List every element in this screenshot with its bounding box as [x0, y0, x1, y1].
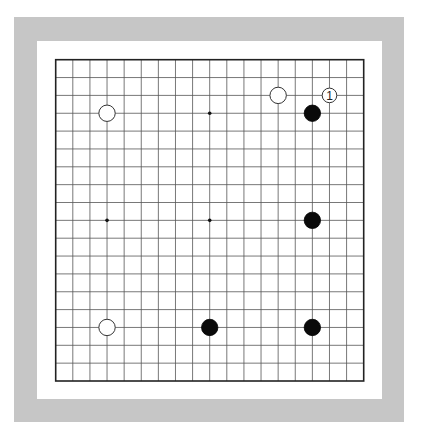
- star-point: [105, 219, 109, 223]
- black-stone[interactable]: [304, 212, 320, 228]
- star-point: [208, 219, 212, 223]
- stones: 1: [99, 87, 337, 335]
- move-number-label: 1: [326, 89, 333, 103]
- white-stone-disc: [99, 319, 115, 335]
- white-stone[interactable]: [270, 87, 286, 103]
- white-stone-disc: [270, 87, 286, 103]
- black-stone[interactable]: [304, 105, 320, 121]
- black-stone-disc: [304, 212, 320, 228]
- white-stone-disc: [99, 105, 115, 121]
- black-stone-disc: [304, 105, 320, 121]
- star-point: [208, 111, 212, 115]
- black-stone-disc: [304, 319, 320, 335]
- black-stone-disc: [202, 319, 218, 335]
- black-stone[interactable]: [304, 319, 320, 335]
- white-stone[interactable]: [99, 105, 115, 121]
- go-board[interactable]: 1: [0, 0, 422, 442]
- black-stone[interactable]: [202, 319, 218, 335]
- white-stone[interactable]: 1: [322, 88, 337, 103]
- white-stone[interactable]: [99, 319, 115, 335]
